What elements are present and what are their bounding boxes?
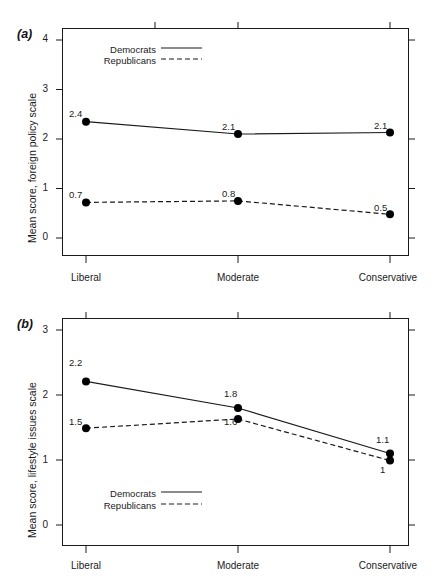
data-point-a-dem-1 <box>234 130 242 138</box>
data-point-a-rep-2 <box>386 210 394 218</box>
chart-panel-b: (b) Mean score, lifestyle issues scale 3… <box>0 294 436 588</box>
plot-area-a <box>0 0 436 294</box>
data-point-b-dem-2 <box>386 450 394 458</box>
data-point-b-rep-0 <box>82 424 90 432</box>
plot-area-b <box>0 294 436 588</box>
data-point-a-rep-0 <box>82 198 90 206</box>
data-point-a-rep-1 <box>234 197 242 205</box>
data-point-a-dem-0 <box>82 118 90 126</box>
data-point-b-dem-0 <box>82 377 90 385</box>
data-point-b-rep-2 <box>386 457 394 465</box>
chart-panel-a: (a) Mean score, foreign policy scale 4 3… <box>0 0 436 294</box>
data-point-a-dem-2 <box>386 129 394 137</box>
figure-container: (a) Mean score, foreign policy scale 4 3… <box>0 0 436 588</box>
data-point-b-rep-1 <box>234 415 242 423</box>
data-point-b-dem-1 <box>234 404 242 412</box>
